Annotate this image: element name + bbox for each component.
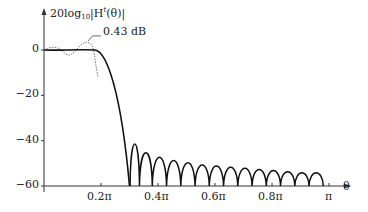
ripple-annotation: 0.43 dB <box>103 25 146 38</box>
x-tick-label: 0.8π <box>258 190 283 203</box>
chart-canvas <box>0 0 368 212</box>
x-axis-label: θ <box>343 180 350 193</box>
y-tick-label: −40 <box>7 133 39 146</box>
sidelobes-curve <box>130 144 323 186</box>
y-axis-arrow-icon <box>42 8 47 15</box>
annotation-leader <box>88 36 101 41</box>
y-tick-label: 0 <box>7 42 39 55</box>
x-tick-label: 0.6π <box>201 190 226 203</box>
windowed-response-curve <box>44 50 130 186</box>
y-tick-label: −20 <box>7 87 39 100</box>
x-tick-label: 0.4π <box>144 190 169 203</box>
y-tick-label: −60 <box>7 178 39 191</box>
y-axis-title: 20log10|Ht(θ)| <box>50 6 125 21</box>
unwindowed-response-curve <box>44 42 98 77</box>
x-tick-label: π <box>325 190 332 203</box>
x-tick-label: 0.2π <box>87 190 112 203</box>
